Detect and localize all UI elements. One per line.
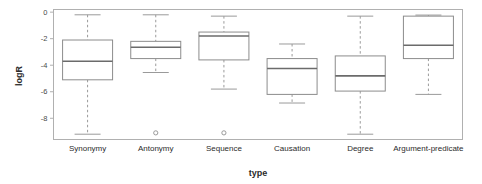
x-category-label: Argument-predicate [393, 144, 464, 153]
y-axis-title: logR [14, 66, 24, 86]
box-iqr-rect [267, 59, 317, 95]
box-iqr-rect [131, 41, 181, 58]
x-category-label: Synonymy [69, 144, 106, 153]
boxplot-canvas: 0-2-4-6-8 SynonymyAntonymySequenceCausat… [0, 0, 482, 184]
plot-area-border [54, 10, 463, 140]
y-tick-label: -2 [41, 34, 48, 43]
x-category-label: Causation [274, 144, 310, 153]
plot-frame [54, 10, 463, 140]
boxplot-figure: 0-2-4-6-8 SynonymyAntonymySequenceCausat… [0, 0, 482, 184]
y-tick-label: -8 [41, 114, 48, 123]
x-category-label: Sequence [206, 144, 243, 153]
x-category-label: Degree [347, 144, 374, 153]
x-category-label: Antonymy [138, 144, 174, 153]
box-iqr-rect [63, 40, 113, 80]
box-iqr-rect [335, 56, 385, 91]
x-axis-category-labels: SynonymyAntonymySequenceCausationDegreeA… [69, 144, 464, 153]
y-tick-label: -4 [41, 61, 48, 70]
y-axis-ticks: 0-2-4-6-8 [41, 8, 54, 123]
y-tick-label: -6 [41, 87, 48, 96]
box-iqr-rect [403, 16, 453, 58]
x-axis-title: type [249, 168, 268, 178]
y-tick-label: 0 [43, 8, 47, 17]
